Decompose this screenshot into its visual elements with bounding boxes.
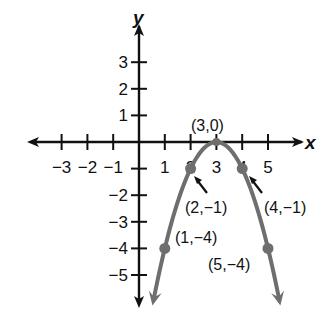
- data-point: [263, 243, 274, 254]
- label-point-3-0: (3,0): [191, 117, 224, 134]
- data-point: [185, 163, 196, 174]
- y-tick-label: −4: [109, 239, 128, 258]
- label-point-4-neg1: (4,−1): [264, 199, 306, 216]
- x-tick-label: −1: [104, 158, 123, 177]
- x-tick-label: 3: [212, 158, 221, 177]
- x-axis: x −3−2−112345: [29, 132, 317, 177]
- label-point-1-neg4: (1,−4): [175, 229, 217, 246]
- x-tick-label: 5: [263, 158, 272, 177]
- pointer-arrow-2-neg1: [194, 176, 207, 193]
- label-point-5-neg4: (5,−4): [208, 256, 250, 273]
- x-tick-label: −2: [78, 158, 97, 177]
- x-tick-label: 1: [160, 158, 169, 177]
- y-tick-label: 3: [119, 53, 128, 72]
- data-point: [237, 163, 248, 174]
- parabola-chart: x −3−2−112345 y 321−2−3−4−5 (3,0) (2,−1)…: [0, 0, 334, 327]
- y-tick-label: −3: [109, 213, 128, 232]
- data-point: [159, 243, 170, 254]
- x-tick-label: −3: [52, 158, 71, 177]
- y-tick-label: −2: [109, 186, 128, 205]
- y-tick-label: 1: [119, 106, 128, 125]
- point-annotations: (3,0) (2,−1) (4,−1) (1,−4) (5,−4): [175, 117, 306, 273]
- label-point-2-neg1: (2,−1): [185, 199, 227, 216]
- x-axis-label: x: [304, 132, 317, 153]
- y-tick-label: 2: [119, 80, 128, 99]
- y-axis: y 321−2−3−4−5: [109, 7, 147, 306]
- data-point: [212, 138, 220, 146]
- y-tick-label: −5: [109, 266, 128, 285]
- y-axis-label: y: [132, 7, 145, 28]
